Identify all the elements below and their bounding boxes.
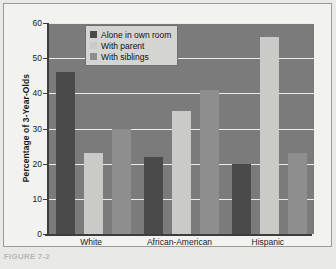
y-tick-mark-30 [43,129,47,130]
legend-label-0: Alone in own room [101,30,171,40]
bar-hispanic-series-0 [232,164,251,234]
legend-swatch-icon-2 [90,53,97,60]
bar-white-series-0 [56,72,75,234]
y-tick-label-30: 30 [26,124,42,134]
legend-item-2: With siblings [90,51,171,62]
chart-legend: Alone in own roomWith parentWith sibling… [85,25,178,66]
y-tick-label-50: 50 [26,53,42,63]
y-axis-tick-labels: 0102030405060 [22,0,42,269]
legend-swatch-icon-0 [90,31,97,38]
y-tick-mark-0 [43,234,47,235]
x-tick-label-hispanic: Hispanic [252,237,285,247]
bar-african-american-series-0 [144,157,163,234]
gridline-60 [49,23,314,24]
y-tick-label-0: 0 [26,229,42,239]
figure-caption: FIGURE 7-2 [4,252,50,261]
y-tick-mark-10 [43,199,47,200]
legend-swatch-icon-1 [90,42,97,49]
bar-white-series-1 [84,153,103,234]
y-tick-label-40: 40 [26,88,42,98]
bar-hispanic-series-1 [260,37,279,234]
y-tick-mark-50 [43,58,47,59]
bar-hispanic-series-2 [288,153,307,234]
bar-african-american-series-1 [172,111,191,234]
bar-white-series-2 [112,129,131,235]
x-axis-line [45,234,312,236]
y-tick-label-60: 60 [26,18,42,28]
legend-item-1: With parent [90,40,171,51]
y-tick-mark-60 [43,23,47,24]
figure-container: Percentage of 3-Year-Olds 0102030405060 … [0,0,336,269]
x-tick-label-african-american: African-American [147,237,212,247]
legend-label-1: With parent [101,41,144,51]
legend-label-2: With siblings [101,52,149,62]
y-tick-label-20: 20 [26,159,42,169]
y-tick-mark-20 [43,164,47,165]
y-tick-mark-40 [43,93,47,94]
bar-african-american-series-2 [200,90,219,234]
x-tick-label-white: White [80,237,102,247]
y-tick-label-10: 10 [26,194,42,204]
legend-item-0: Alone in own room [90,29,171,40]
